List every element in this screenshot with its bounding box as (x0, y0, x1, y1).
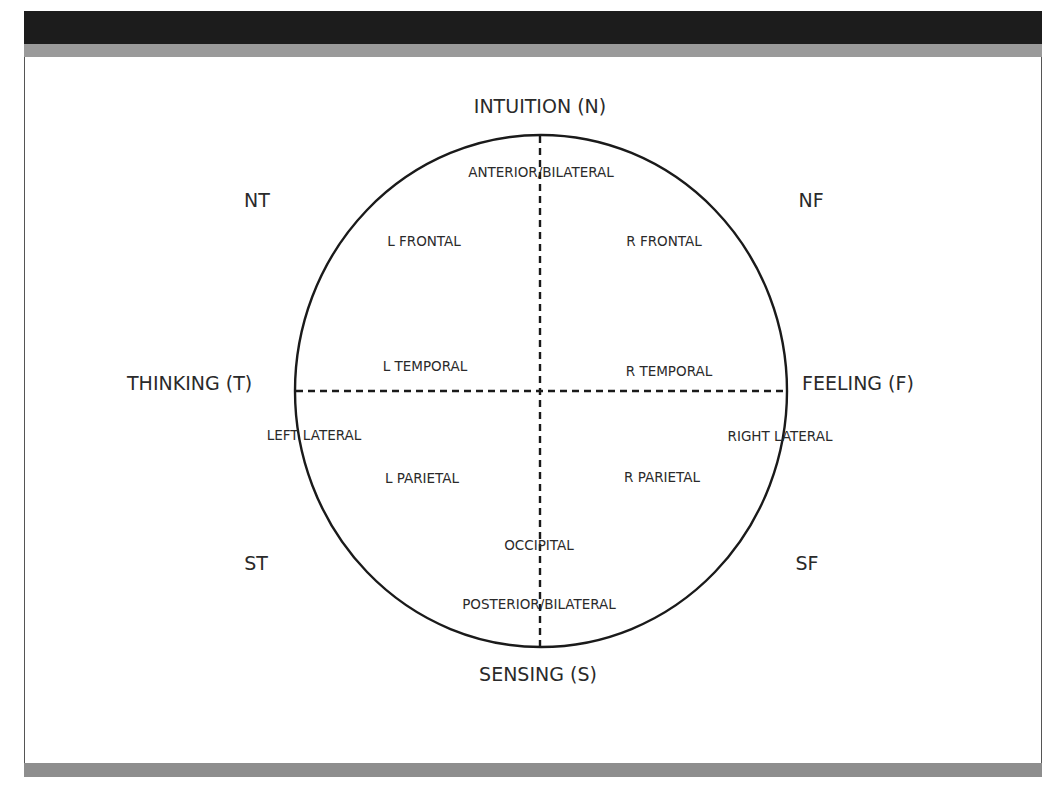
region-label-r-parietal: R PARIETAL (624, 469, 701, 485)
region-label-anterior: ANTERIOR/BILATERAL (468, 164, 614, 180)
region-label-l-parietal: L PARIETAL (385, 470, 460, 486)
axis-label-feeling: FEELING (F) (802, 372, 914, 394)
region-label-left-lateral: LEFT LATERAL (267, 427, 362, 443)
region-label-occipital: OCCIPITAL (504, 537, 574, 553)
axis-label-intuition: INTUITION (N) (474, 95, 606, 117)
region-label-right-lateral: RIGHT LATERAL (728, 428, 833, 444)
region-label-l-temporal: L TEMPORAL (383, 358, 468, 374)
quadrant-label-nf: NF (798, 189, 823, 211)
region-label-l-frontal: L FRONTAL (387, 233, 461, 249)
quadrant-label-st: ST (244, 552, 268, 574)
region-label-r-frontal: R FRONTAL (626, 233, 702, 249)
quadrant-label-sf: SF (796, 552, 819, 574)
axis-label-sensing: SENSING (S) (479, 663, 597, 685)
region-label-r-temporal: R TEMPORAL (626, 363, 713, 379)
axis-label-thinking: THINKING (T) (126, 372, 252, 394)
personality-brain-diagram: INTUITION (N) SENSING (S) THINKING (T) F… (0, 0, 1055, 795)
region-label-posterior: POSTERIOR/BILATERAL (462, 596, 616, 612)
quadrant-label-nt: NT (244, 189, 270, 211)
